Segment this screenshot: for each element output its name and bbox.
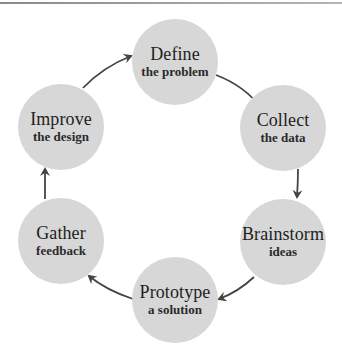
arrow-collect-to-brainstorm xyxy=(297,169,298,197)
node-subtitle: the design xyxy=(33,129,89,144)
node-prototype: Prototype a solution xyxy=(132,257,218,343)
node-subtitle: ideas xyxy=(269,244,297,259)
arrow-improve-to-define xyxy=(83,56,131,88)
node-improve: Improve the design xyxy=(18,84,104,170)
node-gather: Gather feedback xyxy=(18,198,104,284)
node-title: Collect xyxy=(257,111,310,130)
node-subtitle: feedback xyxy=(36,243,86,258)
node-title: Improve xyxy=(30,110,92,129)
node-subtitle: the data xyxy=(260,130,305,145)
node-title: Prototype xyxy=(140,283,211,302)
node-collect: Collect the data xyxy=(240,85,326,171)
node-title: Brainstorm xyxy=(242,225,324,244)
node-define: Define the problem xyxy=(132,19,218,105)
node-title: Gather xyxy=(36,224,86,243)
node-title: Define xyxy=(150,45,200,64)
node-brainstorm: Brainstorm ideas xyxy=(240,199,326,285)
node-subtitle: the problem xyxy=(141,64,208,79)
node-subtitle: a solution xyxy=(148,302,202,317)
arrow-prototype-to-gather xyxy=(89,276,133,299)
arrow-brainstorm-to-prototype xyxy=(219,277,254,299)
